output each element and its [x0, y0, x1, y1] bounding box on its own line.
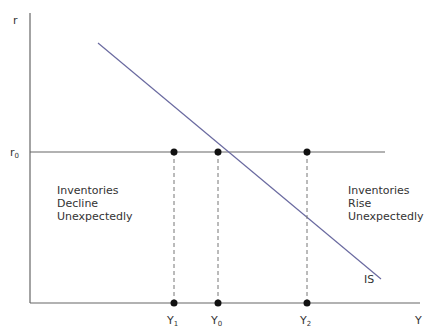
- dot-r0-y1: [171, 149, 178, 156]
- dot-axis-y0: [215, 300, 222, 307]
- y1-text: Y: [167, 314, 174, 327]
- is-curve: [98, 43, 381, 279]
- left-note-line2: Decline: [57, 197, 133, 210]
- y2-text: Y: [300, 314, 307, 327]
- dot-axis-y1: [171, 300, 178, 307]
- dot-axis-y2: [304, 300, 311, 307]
- right-annotation: Inventories Rise Unexpectedly: [348, 184, 424, 223]
- r0-sub: 0: [15, 152, 19, 160]
- right-note-line2: Rise: [348, 197, 424, 210]
- y2-sub: 2: [307, 320, 311, 328]
- dot-r0-y0: [215, 149, 222, 156]
- x-axis-label: Y: [415, 314, 422, 327]
- right-note-line1: Inventories: [348, 184, 424, 197]
- r0-label: r0: [10, 146, 19, 163]
- left-note-line3: Unexpectedly: [57, 210, 133, 223]
- dot-r0-y2: [304, 149, 311, 156]
- y0-sub: 0: [218, 320, 222, 328]
- y0-label: Y0: [211, 314, 222, 331]
- left-annotation: Inventories Decline Unexpectedly: [57, 184, 133, 223]
- y0-text: Y: [211, 314, 218, 327]
- y2-label: Y2: [300, 314, 311, 331]
- y1-sub: 1: [174, 320, 178, 328]
- y-axis-label: r: [13, 14, 18, 27]
- left-note-line1: Inventories: [57, 184, 133, 197]
- y1-label: Y1: [167, 314, 178, 331]
- is-label: IS: [364, 273, 374, 286]
- right-note-line3: Unexpectedly: [348, 210, 424, 223]
